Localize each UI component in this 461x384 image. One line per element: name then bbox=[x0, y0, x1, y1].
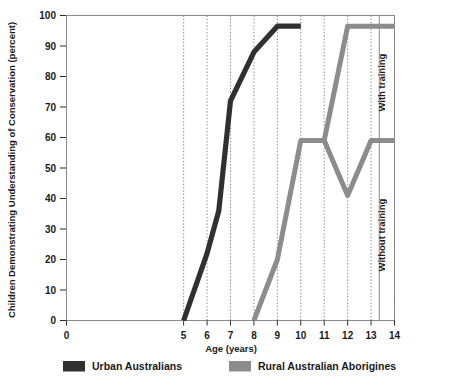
x-tick-label: 7 bbox=[228, 330, 234, 341]
x-tick-label: 12 bbox=[342, 330, 354, 341]
y-axis-title-text: Children Demonstrating Understanding of … bbox=[6, 22, 17, 318]
y-tick-label: 90 bbox=[45, 41, 57, 52]
plot-annotation-group: With trainingWithout training bbox=[376, 16, 387, 321]
x-tick-label: 0 bbox=[64, 330, 70, 341]
y-tick-mark-group bbox=[60, 16, 67, 321]
series-line bbox=[324, 141, 394, 196]
x-axis-title: Age (years) bbox=[205, 343, 257, 354]
y-tick-label: 30 bbox=[45, 224, 57, 235]
legend-label: Urban Australians bbox=[92, 360, 182, 372]
y-tick-label: 50 bbox=[45, 163, 57, 174]
x-tick-label-group: 0567891011121314 bbox=[64, 330, 401, 341]
y-tick-label: 100 bbox=[39, 10, 56, 21]
y-tick-label: 80 bbox=[45, 71, 57, 82]
y-tick-label: 60 bbox=[45, 132, 57, 143]
y-axis-title: Children Demonstrating Understanding of … bbox=[6, 22, 17, 318]
x-tick-label: 14 bbox=[389, 330, 401, 341]
plot-annotation: With training bbox=[376, 53, 387, 111]
y-tick-label: 20 bbox=[45, 254, 57, 265]
y-tick-label: 70 bbox=[45, 102, 57, 113]
legend-swatch bbox=[63, 361, 85, 372]
legend-swatch bbox=[229, 361, 251, 372]
series-line bbox=[184, 26, 301, 320]
plot-annotation: Without training bbox=[376, 199, 387, 272]
chart-legend: Urban AustraliansRural Australian Aborig… bbox=[63, 360, 396, 372]
x-tick-label: 8 bbox=[251, 330, 257, 341]
x-axis-title-text: Age (years) bbox=[205, 343, 257, 354]
x-tick-label: 5 bbox=[181, 330, 187, 341]
x-tick-mark-group bbox=[67, 321, 395, 326]
legend-label: Rural Australian Aborigines bbox=[258, 360, 396, 372]
y-tick-label-group: 0102030405060708090100 bbox=[39, 10, 56, 326]
x-tick-label: 13 bbox=[366, 330, 378, 341]
chart-figure: Children Demonstrating Understanding of … bbox=[0, 0, 461, 384]
x-tick-label: 6 bbox=[204, 330, 210, 341]
conservation-understanding-line-chart: Children Demonstrating Understanding of … bbox=[0, 0, 461, 384]
y-tick-label: 0 bbox=[50, 315, 56, 326]
vertical-gridline-group bbox=[184, 16, 395, 321]
series-group bbox=[184, 26, 395, 320]
x-tick-label: 11 bbox=[319, 330, 330, 341]
x-tick-label: 9 bbox=[275, 330, 281, 341]
x-tick-label: 10 bbox=[295, 330, 307, 341]
y-tick-label: 40 bbox=[45, 193, 57, 204]
y-tick-label: 10 bbox=[45, 285, 57, 296]
